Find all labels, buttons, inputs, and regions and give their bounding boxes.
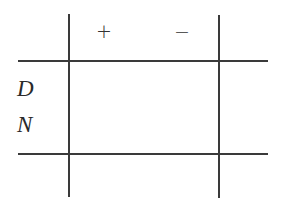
column-header-minus: −: [174, 20, 190, 42]
row-label-d: D: [17, 76, 34, 102]
right-vertical-rule: [218, 15, 220, 198]
column-header-plus: +: [96, 20, 112, 42]
row-label-n: N: [17, 112, 32, 138]
left-vertical-rule: [68, 14, 70, 197]
bottom-horizontal-rule: [18, 153, 268, 155]
top-horizontal-rule: [18, 60, 268, 62]
